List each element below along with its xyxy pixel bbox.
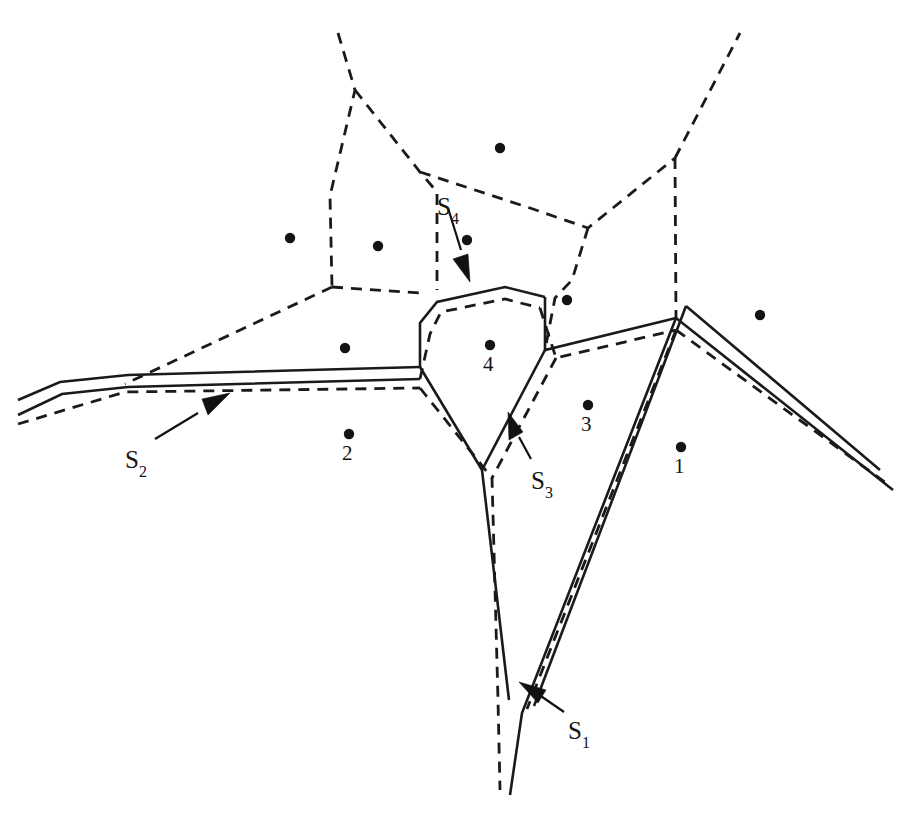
- voronoi-edges-group: [125, 33, 740, 384]
- site-point-4: [485, 340, 495, 350]
- voronoi-corridor-diagram: 1 2 3 4 S1 S2 S3 S4: [0, 0, 911, 819]
- site-label-1: 1: [674, 456, 685, 477]
- site-label-4: 4: [483, 354, 494, 375]
- site-point-unlabeled: [373, 241, 383, 251]
- site-label-2: 2: [342, 443, 353, 464]
- corridor-center-dashed: [420, 299, 540, 379]
- site-point-3: [583, 400, 593, 410]
- site-point-unlabeled: [462, 235, 472, 245]
- corridor-label-s1: S1: [568, 718, 590, 748]
- voronoi-edge: [355, 90, 437, 290]
- corridor-label-s3: S3: [531, 468, 553, 498]
- voronoi-edge: [330, 33, 355, 287]
- site-point-2: [344, 429, 354, 439]
- voronoi-edge: [675, 158, 676, 318]
- arrow-head-s2: [202, 393, 230, 415]
- voronoi-edge: [332, 287, 420, 293]
- site-point-unlabeled: [755, 310, 765, 320]
- arrow-head-s4: [453, 254, 470, 282]
- site-point-unlabeled: [340, 343, 350, 353]
- site-point-unlabeled: [285, 233, 295, 243]
- voronoi-edge: [675, 33, 740, 158]
- corridors-group: [18, 287, 893, 795]
- corridor-boundary-outer: [545, 297, 676, 350]
- sites-group: [285, 143, 765, 452]
- corridor-label-s2: S2: [125, 447, 147, 477]
- leader-line-s3: [519, 437, 531, 459]
- corridor-center-dashed: [492, 358, 556, 478]
- diagram-canvas: [0, 0, 911, 819]
- corridor-boundary-inner: [686, 306, 880, 470]
- leader-line-s2: [155, 413, 198, 439]
- corridor-center-dashed: [540, 308, 676, 358]
- corridor-center-dashed: [420, 388, 500, 790]
- site-point-unlabeled: [495, 143, 505, 153]
- voronoi-edge: [545, 228, 588, 350]
- site-point-unlabeled: [562, 295, 572, 305]
- corridor-center-dashed: [527, 330, 676, 709]
- site-label-3: 3: [581, 414, 592, 435]
- site-point-1: [676, 442, 686, 452]
- corridor-label-s4: S4: [437, 194, 459, 224]
